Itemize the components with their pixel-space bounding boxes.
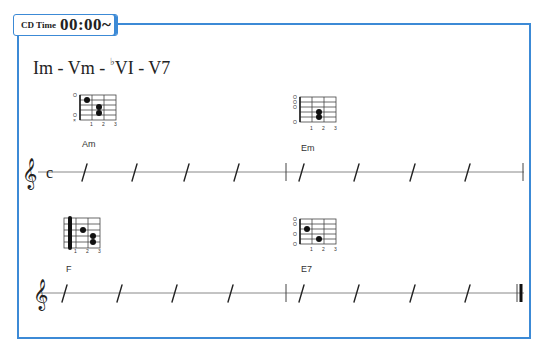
common-time-icon: c — [46, 164, 53, 181]
treble-clef-icon: 𝄞 — [33, 279, 48, 311]
svg-text:1: 1 — [310, 246, 313, 252]
svg-text:3: 3 — [114, 121, 117, 127]
svg-text:2: 2 — [322, 246, 325, 252]
svg-text:2: 2 — [102, 121, 105, 127]
chord-diagram-am: O O × 123 — [73, 92, 117, 127]
svg-text:1: 1 — [74, 248, 77, 254]
chord-diagram-em: O O O O 123 — [293, 94, 337, 131]
chord-name-am: Am — [82, 139, 96, 149]
chord-name-f: F — [66, 264, 72, 274]
chord-diagram-e7: O O O O 123 — [293, 216, 337, 252]
svg-text:1: 1 — [90, 121, 93, 127]
svg-text:O: O — [293, 221, 297, 227]
chord-diagram-f: 123 — [64, 216, 101, 254]
svg-text:O: O — [293, 241, 297, 247]
staff-row-1: 𝄞 c — [22, 158, 524, 190]
final-barline-thick — [520, 284, 523, 302]
svg-text:3: 3 — [98, 248, 101, 254]
svg-text:2: 2 — [322, 125, 325, 131]
svg-text:3: 3 — [334, 125, 337, 131]
svg-text:O: O — [73, 92, 77, 98]
svg-text:2: 2 — [86, 248, 89, 254]
svg-text:O: O — [293, 231, 297, 237]
svg-text:O: O — [293, 119, 297, 125]
staff-row-2: 𝄞 — [33, 279, 524, 311]
barre-marker — [68, 216, 72, 250]
svg-text:O: O — [293, 104, 297, 110]
svg-text:1: 1 — [310, 125, 313, 131]
notation-canvas: O O × 123 O O O O 123 — [0, 0, 552, 353]
treble-clef-icon: 𝄞 — [22, 158, 37, 190]
svg-text:×: × — [73, 117, 76, 123]
svg-text:3: 3 — [334, 246, 337, 252]
chord-name-e7: E7 — [301, 264, 312, 274]
chord-name-em: Em — [301, 143, 315, 153]
